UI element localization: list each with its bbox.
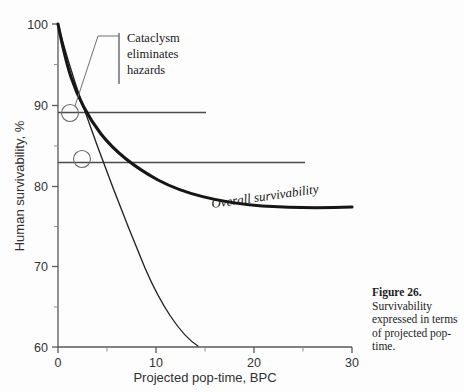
x-tick-label-20: 20 xyxy=(247,356,261,370)
figure-caption-label: Figure 26. xyxy=(372,286,422,298)
x-tick-label-10: 10 xyxy=(149,356,163,370)
callout-text-line-3: hazards xyxy=(127,63,165,77)
y-axis-title: Human survivability, % xyxy=(12,120,27,251)
x-axis-ticks: 0 10 20 30 xyxy=(55,347,359,370)
x-axis-title: Projected pop-time, BPC xyxy=(133,370,276,385)
callout-text-line-1: Cataclysm xyxy=(127,31,180,45)
y-tick-label-60: 60 xyxy=(34,341,48,355)
figure-page: 100 90 80 70 60 0 10 20 30 xyxy=(0,0,464,392)
lower-marker-circle xyxy=(74,151,91,168)
callout-text-line-2: eliminates xyxy=(127,47,179,61)
figure-caption-text: Survivability expressed in terms of proj… xyxy=(372,300,458,353)
y-tick-label-70: 70 xyxy=(34,260,48,274)
y-axis-ticks: 100 90 80 70 60 xyxy=(27,18,58,355)
callout-leader-line xyxy=(75,36,119,106)
figure-caption: Figure 26. Survivability expressed in te… xyxy=(372,286,458,354)
x-tick-label-0: 0 xyxy=(55,356,62,370)
y-tick-label-90: 90 xyxy=(34,99,48,113)
series-overall-survivability xyxy=(58,24,352,208)
y-tick-label-80: 80 xyxy=(34,180,48,194)
y-tick-label-100: 100 xyxy=(27,18,48,32)
x-tick-label-30: 30 xyxy=(345,356,359,370)
